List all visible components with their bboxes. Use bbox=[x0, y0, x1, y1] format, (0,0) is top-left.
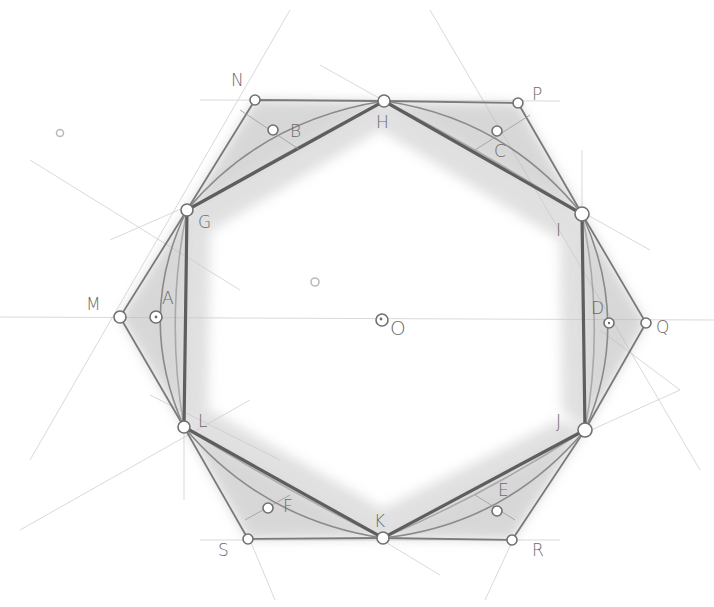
label-P: P bbox=[532, 84, 542, 104]
label-D: D bbox=[591, 298, 604, 318]
stray-mark bbox=[311, 278, 319, 286]
point-H bbox=[378, 95, 390, 107]
label-F: F bbox=[283, 496, 293, 516]
label-B: B bbox=[290, 121, 301, 141]
point-B bbox=[268, 125, 278, 135]
point-O bbox=[376, 314, 388, 326]
label-O: O bbox=[390, 316, 406, 340]
label-A: A bbox=[162, 288, 174, 308]
point-M bbox=[114, 311, 126, 323]
label-I: I bbox=[556, 220, 561, 240]
label-G: G bbox=[198, 212, 211, 232]
point-R bbox=[507, 535, 517, 545]
label-L: L bbox=[198, 411, 207, 431]
label-C: C bbox=[494, 141, 506, 161]
point-J bbox=[578, 423, 592, 437]
label-N: N bbox=[231, 70, 244, 90]
label-M: M bbox=[86, 294, 101, 314]
point-E bbox=[492, 506, 502, 516]
point-P bbox=[513, 98, 523, 108]
label-H: H bbox=[376, 112, 389, 132]
label-K: K bbox=[374, 511, 385, 531]
point-Q bbox=[641, 318, 651, 328]
point-G bbox=[181, 204, 193, 216]
point-C bbox=[492, 126, 502, 136]
label-R: R bbox=[532, 540, 544, 560]
point-L bbox=[178, 421, 190, 433]
point-N bbox=[250, 95, 260, 105]
label-J: J bbox=[556, 411, 561, 431]
label-E: E bbox=[498, 480, 509, 500]
label-Q: Q bbox=[656, 317, 669, 337]
label-S: S bbox=[218, 540, 229, 560]
stray-mark bbox=[57, 130, 64, 137]
point-K bbox=[377, 532, 389, 544]
point-S bbox=[243, 534, 253, 544]
point-F bbox=[263, 503, 273, 513]
construction-diagram: N P Q R S M H I J K L G A B C D E F O bbox=[0, 0, 714, 607]
point-I bbox=[575, 207, 589, 221]
